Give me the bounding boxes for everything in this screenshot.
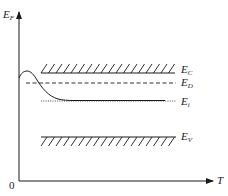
valence-band-level: [41, 137, 176, 146]
x-axis-label: T: [217, 175, 223, 186]
valence-band-label: EV: [181, 131, 192, 144]
fermi-level-curve: [19, 71, 165, 101]
donor-level-label: ED: [181, 77, 193, 90]
y-axis-label: EF: [3, 9, 14, 22]
intrinsic-level-label: Ei: [181, 96, 190, 109]
conduction-band-level: [41, 64, 175, 73]
band-diagram: [0, 0, 228, 196]
origin-label: 0: [9, 180, 15, 191]
